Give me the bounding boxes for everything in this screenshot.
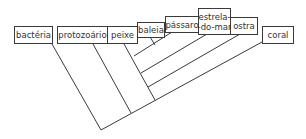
branch-estrela xyxy=(141,34,207,73)
taxon-peixe: peixe xyxy=(107,26,138,44)
taxon-estrela-do-mar: estrela- -do-mar xyxy=(198,8,231,35)
branch-protozoario xyxy=(93,44,131,113)
taxon-coral: coral xyxy=(262,26,294,44)
taxon-bacteria: bactéria xyxy=(14,26,53,44)
taxon-ostra: ostra xyxy=(230,17,258,35)
cladogram-branches xyxy=(0,0,306,139)
taxon-baleia: baleia xyxy=(137,22,165,38)
taxon-passaro: pássaro xyxy=(165,16,199,33)
taxon-protozoario: protozoário xyxy=(57,26,108,44)
branch-bacteria xyxy=(52,44,101,130)
branch-trunk xyxy=(101,42,262,130)
cladogram-diagram: bactéria protozoário peixe baleia pássar… xyxy=(0,0,306,139)
